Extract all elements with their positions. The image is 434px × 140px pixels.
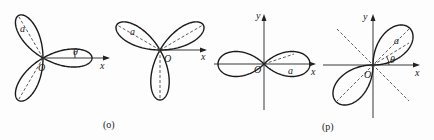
y-axis-label: y xyxy=(255,10,261,21)
angle-label: θ xyxy=(73,46,78,57)
radius-line xyxy=(264,54,294,64)
origin-label: O xyxy=(164,53,171,64)
x-axis-label: x xyxy=(310,66,316,77)
polar-rose-figure: a θ O x a O x y O a x xyxy=(0,0,434,140)
angle-label: θ xyxy=(390,54,395,65)
y-axis-label: y xyxy=(362,11,368,22)
origin-label: O xyxy=(254,64,261,75)
origin-label: O xyxy=(364,69,371,80)
y-axis-arrow-icon xyxy=(371,14,376,21)
x-axis-label: x xyxy=(414,67,420,78)
x-axis-label: x xyxy=(200,51,206,62)
caption-o: (o) xyxy=(103,119,115,131)
rose-4-leaf-a: y O a x xyxy=(214,10,316,110)
rose-3-leaf-b: a O x xyxy=(116,22,207,100)
radius-label: a xyxy=(394,35,399,46)
rose-3-leaf-a: a θ O x xyxy=(15,15,110,101)
rose-4-leaf-b: y a θ O x xyxy=(323,11,420,118)
radius-label: a xyxy=(288,65,293,76)
origin-label: O xyxy=(38,62,45,73)
radius-label: a xyxy=(20,23,25,34)
caption-p: (p) xyxy=(322,121,334,133)
radius-label: a xyxy=(130,26,135,37)
y-axis-arrow-icon xyxy=(262,14,267,21)
x-axis-label: x xyxy=(99,60,105,71)
